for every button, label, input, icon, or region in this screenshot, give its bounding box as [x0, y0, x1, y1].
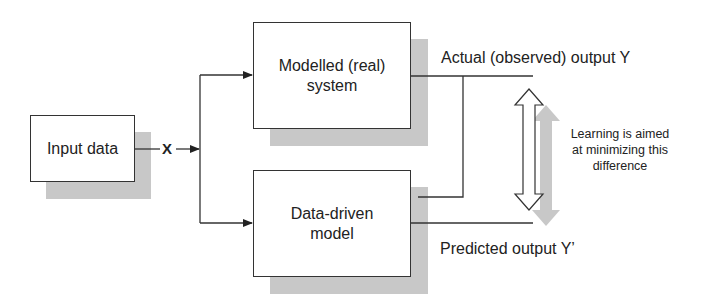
learning-note-line2: at minimizing this: [560, 142, 680, 158]
input-data-box: Input data: [30, 115, 135, 182]
data-driven-model-box: Data-driven model: [253, 170, 411, 277]
real-system-box: Modelled (real) system: [253, 22, 411, 129]
model-label-line2: model: [310, 224, 354, 244]
model-label-line1: Data-driven: [291, 204, 374, 224]
input-data-label: Input data: [47, 139, 118, 159]
actual-output-label: Actual (observed) output Y: [441, 49, 630, 67]
predicted-output-label: Predicted output Y’: [440, 240, 575, 258]
learning-note-line3: difference: [560, 158, 680, 174]
real-system-label-line1: Modelled (real): [279, 56, 386, 76]
real-system-label-line2: system: [307, 76, 358, 96]
x-signal-label: X: [162, 140, 172, 157]
learning-note: Learning is aimed at minimizing this dif…: [560, 126, 680, 174]
learning-note-line1: Learning is aimed: [560, 126, 680, 142]
